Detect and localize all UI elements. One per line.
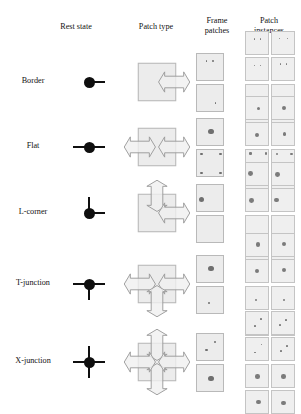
patch-instance xyxy=(245,311,269,335)
patch-instance-dot xyxy=(255,374,260,379)
patch-instance xyxy=(245,122,269,146)
patch-instance-dot xyxy=(280,350,282,352)
patch-instance-dot xyxy=(282,268,286,272)
frame-patches-x-junction xyxy=(196,333,224,392)
patch-instance-dot xyxy=(283,132,287,136)
patch-type-x-junction xyxy=(118,323,196,401)
patch-instance-dot xyxy=(255,269,259,273)
patch-instance-dot xyxy=(254,352,256,354)
patch-instance-dot xyxy=(281,374,286,379)
frame-patch xyxy=(196,333,224,361)
frame-patch-dot xyxy=(212,60,214,62)
patch-instance xyxy=(245,233,269,257)
frame-patch xyxy=(196,364,224,392)
patch-instance-dot xyxy=(286,345,288,347)
frame-patch xyxy=(196,255,224,283)
frame-patch-dot xyxy=(199,197,205,203)
frame-patch-dot xyxy=(200,172,203,175)
patch-instance-dot xyxy=(274,198,279,203)
column-header-patch-type-label: Patch type xyxy=(139,22,173,31)
patch-instance-dot xyxy=(260,65,261,66)
frame-patches-l-corner xyxy=(196,184,224,243)
rest-state-flat xyxy=(62,120,116,174)
patch-instance-group xyxy=(245,162,295,212)
patch-instance xyxy=(271,390,295,414)
frame-patch-dot xyxy=(208,376,214,382)
patch-instance-dot xyxy=(249,152,251,154)
column-header-frame-patches: Frame patches xyxy=(194,16,240,36)
patch-instance xyxy=(245,188,269,212)
frame-patch-dot xyxy=(208,129,213,134)
patch-instance-dot xyxy=(283,299,285,301)
column-header-patch-instances-line1: Patch xyxy=(240,16,298,26)
row-label-t-junction: T-junction xyxy=(2,278,64,287)
patch-instance-dot xyxy=(265,152,267,154)
frame-patch-dot xyxy=(219,172,222,175)
patch-instance-dot xyxy=(285,319,287,321)
patch-instance-dot xyxy=(282,242,286,246)
patch-instance-dot xyxy=(280,63,281,64)
rest-node-icon xyxy=(84,208,95,219)
rest-node-icon xyxy=(84,142,95,153)
patch-instance-dot xyxy=(287,38,288,39)
patch-instance-group xyxy=(245,96,295,146)
patch-instance xyxy=(271,259,295,283)
patch-instance xyxy=(245,259,269,283)
patch-instance-group xyxy=(245,364,295,414)
column-header-frame-patches-line2: patches xyxy=(194,26,240,36)
patch-instance xyxy=(271,122,295,146)
frame-patch-dot xyxy=(205,349,207,351)
patch-instance xyxy=(245,31,269,55)
patch-instance-dot xyxy=(254,38,255,39)
rest-node-icon xyxy=(84,357,95,368)
frame-patch-dot xyxy=(206,60,208,62)
patch-instance-dot xyxy=(286,63,287,64)
row-label-x-junction: X-junction xyxy=(2,356,64,365)
patch-instance-dot xyxy=(249,198,254,203)
patch-instance-dot xyxy=(248,171,253,176)
patch-instance xyxy=(245,57,269,81)
patch-instance-dot xyxy=(256,242,260,246)
rest-state-x-junction xyxy=(62,335,116,389)
frame-patch-dot xyxy=(200,153,203,156)
patch-instance-group xyxy=(245,311,295,361)
rest-node-icon xyxy=(84,279,95,290)
row-label-border: Border xyxy=(2,76,64,85)
frame-patch xyxy=(196,149,224,177)
patch-instance xyxy=(271,162,295,186)
column-header-frame-patches-line1: Frame xyxy=(194,16,240,26)
patch-instance-group xyxy=(245,233,295,283)
frame-patch xyxy=(196,286,224,314)
frame-patch-dot xyxy=(219,153,222,156)
patch-instance-dot xyxy=(276,153,278,155)
patch-instance-dot xyxy=(279,324,281,326)
patch-instance-dot xyxy=(261,344,263,346)
frame-patches-border xyxy=(196,53,224,112)
patch-instance-dot xyxy=(256,400,261,405)
patch-instance-dot xyxy=(254,325,256,327)
patch-instance xyxy=(271,286,295,310)
patch-instance-dot xyxy=(290,153,292,155)
frame-patch xyxy=(196,215,224,243)
frame-patch-dot xyxy=(215,102,217,104)
frame-patches-flat xyxy=(196,118,224,177)
patch-type-t-junction xyxy=(118,245,196,323)
patch-instance xyxy=(245,337,269,361)
patch-instance-dot xyxy=(260,318,262,320)
rest-state-t-junction xyxy=(62,257,116,311)
patch-instance-dot xyxy=(257,107,261,111)
frame-patch xyxy=(196,53,224,81)
patch-instance xyxy=(245,96,269,120)
patch-instance-dot xyxy=(254,65,255,66)
patch-instance-dot xyxy=(255,299,257,301)
patch-instance xyxy=(245,364,269,388)
row-label-l-corner: L-corner xyxy=(2,207,64,216)
rest-node-icon xyxy=(84,77,95,88)
patch-instance xyxy=(245,286,269,310)
patch-instance-dot xyxy=(255,133,259,137)
patch-instance xyxy=(271,96,295,120)
patch-instance xyxy=(271,57,295,81)
column-header-rest-state: Rest state xyxy=(40,22,112,32)
frame-patches-t-junction xyxy=(196,255,224,314)
